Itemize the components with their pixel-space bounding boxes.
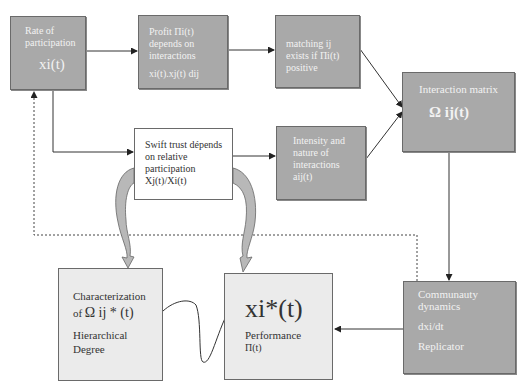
node-characterization: Characterization of Ω ij * (t) Hierarchi…	[58, 268, 163, 381]
node-matching: matching ij exists if Πi(t) positive	[275, 15, 360, 88]
node-intensity: Intensity and nature of interactions aij…	[276, 126, 366, 200]
swift-formula: Xj(t)/Xi(t)	[145, 175, 232, 187]
rate-line1: Rate of	[25, 25, 85, 37]
profit-line1: Profit Πi(t)	[149, 26, 227, 38]
intensity-line3: interactions	[293, 159, 365, 171]
profit-line2: depends on	[149, 38, 227, 50]
arrow-matching-to-matrix	[360, 49, 402, 107]
matching-line3: positive	[286, 62, 359, 74]
curved-arrow-left	[116, 168, 134, 268]
community-formula: dxi/dt	[418, 320, 515, 332]
node-community-dynamics: Communauty dynamics dxi/dt Replicator	[403, 281, 516, 374]
community-label: Replicator	[418, 340, 515, 352]
node-interaction-matrix: Interaction matrix Ω ij(t)	[402, 72, 515, 152]
curved-arrow-right	[233, 168, 256, 272]
char-prefix: of	[73, 307, 82, 319]
matrix-title: Interaction matrix	[419, 83, 514, 95]
matching-line1: matching ij	[286, 38, 359, 50]
intensity-line1: Intensity and	[293, 135, 365, 147]
rate-var: xi(t)	[39, 55, 85, 73]
node-rate-of-participation: Rate of participation xi(t)	[10, 16, 86, 90]
intensity-line2: nature of	[293, 147, 365, 159]
char-line4: Degree	[73, 342, 162, 356]
community-line2: dynamics	[418, 300, 515, 312]
profit-line3: interactions	[149, 50, 227, 62]
swift-line1: Swift trust dépends	[145, 139, 232, 151]
perf-label: Performance	[245, 328, 332, 342]
swift-line3: participation	[145, 163, 232, 175]
perf-var: xi*(t)	[245, 294, 332, 324]
arrow-intensity-to-matrix	[366, 112, 402, 159]
node-swift-trust: Swift trust dépends on relative particip…	[134, 128, 233, 200]
char-line1: Characterization	[73, 289, 162, 303]
intensity-formula: aij(t)	[293, 171, 365, 183]
community-line1: Communauty	[418, 288, 515, 300]
char-symbol: Ω ij * (t)	[85, 305, 134, 320]
swift-line2: on relative	[145, 151, 232, 163]
node-performance: xi*(t) Performance Π(t)	[224, 273, 333, 380]
matrix-symbol: Ω ij(t)	[429, 103, 514, 121]
profit-formula: xi(t).xj(t) dij	[149, 68, 227, 80]
perf-formula: Π(t)	[245, 342, 332, 354]
node-profit: Profit Πi(t) depends on interactions xi(…	[138, 15, 228, 89]
wavy-connector	[163, 301, 226, 362]
char-line3: Hierarchical	[73, 328, 162, 342]
matching-line2: exists if Πi(t)	[286, 50, 359, 62]
arrow-rate-to-swift-trust	[53, 90, 133, 152]
rate-line2: participation	[25, 37, 85, 49]
